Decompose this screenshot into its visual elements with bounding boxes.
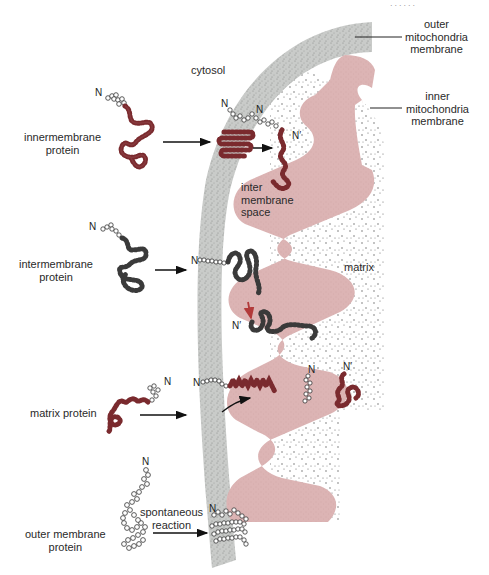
outer-membrane-protein-label: outer membrane protein [25, 528, 106, 553]
n-terminus-intermembrane-import: N [191, 256, 198, 266]
n-terminus-outer-membrane-inserted: N [209, 504, 216, 514]
n-terminus-innermembrane-free: N [95, 88, 102, 98]
intermembrane-protein-label: intermembrane protein [19, 258, 93, 283]
inner-membrane-line-3: membrane [406, 115, 469, 128]
intermembrane-space-line-2: membrane [241, 194, 294, 207]
matrix-label: matrix [344, 261, 374, 274]
intermembrane-space-line-3: space [241, 206, 294, 219]
intermembrane-protein-line-2: protein [19, 271, 93, 284]
inner-membrane-line-2: mitochondria [406, 103, 469, 116]
outer-membrane-line-3: membrane [405, 43, 468, 56]
n-terminus-intermembrane-free: N [89, 222, 96, 232]
outer-membrane-line-2: mitochondria [405, 31, 468, 44]
n-terminus-innermembrane-outer: N [221, 99, 228, 109]
n-prime-matrix: N′ [343, 362, 352, 372]
intermembrane-protein-free [101, 223, 146, 291]
innermembrane-protein-line-1: innermembrane [24, 131, 101, 144]
innermembrane-protein-label: innermembrane protein [24, 131, 101, 156]
n-terminus-matrix-cleaved: N [308, 365, 315, 375]
n-terminus-innermembrane-inner: N [256, 105, 263, 115]
inner-membrane-label: inner mitochondria membrane [406, 90, 469, 128]
inner-membrane-line-1: inner [406, 90, 469, 103]
matrix-protein-free [108, 384, 160, 432]
n-terminus-matrix-import: N [193, 378, 200, 388]
cytosol-label: cytosol [191, 64, 225, 77]
intermembrane-space-line-1: inter [241, 181, 294, 194]
n-prime-innermembrane: N′ [292, 131, 301, 141]
innermembrane-protein-line-2: protein [24, 144, 101, 157]
spontaneous-reaction-label: spontaneous reaction [140, 506, 203, 531]
outer-membrane-label: outer mitochondria membrane [405, 18, 468, 56]
mitochondria-import-diagram [0, 0, 489, 575]
spontaneous-reaction-line-1: spontaneous [140, 506, 203, 519]
intermembrane-space-label: inter membrane space [241, 181, 294, 219]
matrix-protein-label: matrix protein [30, 407, 97, 420]
spontaneous-reaction-line-2: reaction [140, 519, 203, 532]
outer-membrane-protein-line-2: protein [25, 541, 106, 554]
n-terminus-matrix-free: N [164, 377, 171, 387]
n-terminus-outer-membrane-free: N [142, 457, 149, 467]
matrix-protein-line-1: matrix protein [30, 407, 97, 420]
innermembrane-protein-free [106, 93, 152, 167]
outer-membrane-protein-line-1: outer membrane [25, 528, 106, 541]
intermembrane-protein-line-1: intermembrane [19, 258, 93, 271]
n-prime-intermembrane: N′ [232, 321, 241, 331]
outer-membrane-line-1: outer [405, 18, 468, 31]
